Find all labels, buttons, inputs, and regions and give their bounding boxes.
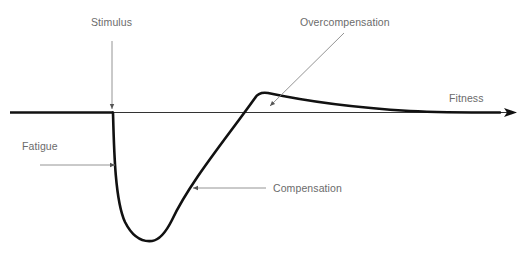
fatigue-label: Fatigue (22, 140, 58, 152)
fitness-label: Fitness (449, 92, 484, 104)
compensation-label: Compensation (273, 182, 342, 194)
supercompensation-curve (113, 93, 500, 241)
stimulus-label: Stimulus (91, 16, 132, 28)
overcompensation-label: Overcompensation (300, 16, 390, 28)
supercompensation-diagram (0, 0, 528, 255)
overcompensation-pointer-icon (270, 33, 344, 106)
